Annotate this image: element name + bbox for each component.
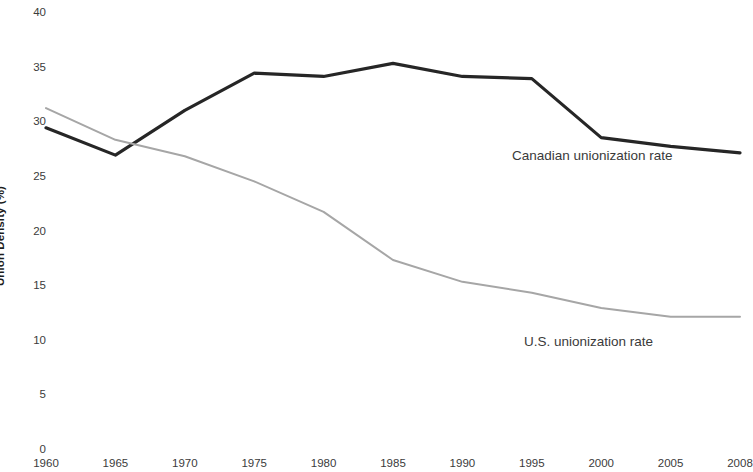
x-tick-label: 1965 xyxy=(103,457,129,469)
x-tick-label: 1960 xyxy=(33,457,59,469)
x-tick-label: 2000 xyxy=(588,457,614,469)
series-label-canada: Canadian unionization rate xyxy=(512,148,673,163)
x-tick-label: 2008 xyxy=(727,457,753,469)
series-label-us: U.S. unionization rate xyxy=(524,334,653,349)
x-tick-label: 1970 xyxy=(172,457,198,469)
x-tick-label: 2005 xyxy=(658,457,684,469)
x-tick-label: 1980 xyxy=(311,457,337,469)
x-tick-label: 1975 xyxy=(241,457,267,469)
x-tick-label: 1995 xyxy=(519,457,545,469)
x-tick-label: 1985 xyxy=(380,457,406,469)
x-tick-label: 1990 xyxy=(450,457,476,469)
